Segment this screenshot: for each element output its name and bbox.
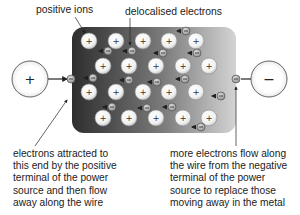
positive-ion: + <box>95 110 111 126</box>
positive-ion: + <box>95 58 111 74</box>
positive-ion: + <box>201 58 217 74</box>
positive-ion: + <box>108 84 124 100</box>
delocalised-electrons-label: delocalised electrons <box>125 6 222 18</box>
positive-ion: + <box>81 84 97 100</box>
positive-ion: + <box>135 33 151 49</box>
left-caption-leader <box>35 100 67 146</box>
positive-ion: + <box>161 84 177 100</box>
left-caption: electrons attracted to this end by the p… <box>13 148 117 209</box>
right-caption-line: terminal of the power <box>170 172 287 184</box>
svg-text:+: + <box>165 36 172 46</box>
positive-ion: + <box>135 84 151 100</box>
wire-electron <box>232 75 240 83</box>
positive-ion: + <box>108 33 124 49</box>
negative-terminal: − <box>251 61 287 97</box>
svg-text:+: + <box>179 61 186 71</box>
svg-text:+: + <box>125 61 132 71</box>
svg-text:+: + <box>152 61 159 71</box>
positive-ion: + <box>148 110 164 126</box>
positive-ion: + <box>188 33 204 49</box>
svg-text:+: + <box>112 36 119 46</box>
right-caption: more electrons flow along the wire from … <box>170 148 287 209</box>
left-caption-line: this end by the positive <box>13 160 117 172</box>
right-caption-line: more electrons flow along <box>170 148 287 160</box>
left-caption-line: terminal of the power <box>13 172 117 184</box>
positive-terminal: + <box>12 61 48 97</box>
svg-text:+: + <box>192 36 199 46</box>
svg-text:+: + <box>192 87 199 97</box>
svg-text:+: + <box>179 113 186 123</box>
positive-ion: + <box>175 58 191 74</box>
svg-text:+: + <box>25 72 36 87</box>
svg-text:+: + <box>139 36 146 46</box>
positive-ions-label: positive ions <box>36 4 93 16</box>
svg-text:+: + <box>85 36 92 46</box>
svg-text:+: + <box>125 113 132 123</box>
right-caption-line: source to replace those <box>170 185 287 197</box>
svg-text:+: + <box>152 113 159 123</box>
wire-electron <box>67 75 75 83</box>
positive-ion: + <box>121 58 137 74</box>
positive-ion: + <box>81 33 97 49</box>
svg-text:+: + <box>139 87 146 97</box>
positive-ion: + <box>175 110 191 126</box>
svg-text:+: + <box>205 61 212 71</box>
svg-text:+: + <box>165 87 172 97</box>
svg-text:+: + <box>112 87 119 97</box>
positive-ion: + <box>161 33 177 49</box>
left-caption-line: away along the wire <box>13 197 117 209</box>
svg-text:−: − <box>263 71 275 87</box>
svg-text:+: + <box>99 61 106 71</box>
left-caption-line: electrons attracted to <box>13 148 117 160</box>
positive-ion: + <box>148 58 164 74</box>
positive-ion: + <box>121 110 137 126</box>
svg-text:+: + <box>85 87 92 97</box>
left-caption-line: source and then flow <box>13 185 117 197</box>
svg-text:+: + <box>99 113 106 123</box>
right-caption-line: moving away in the metal <box>170 197 287 209</box>
svg-text:+: + <box>205 113 212 123</box>
right-caption-line: the wire from the negative <box>170 160 287 172</box>
positive-ion: + <box>188 84 204 100</box>
